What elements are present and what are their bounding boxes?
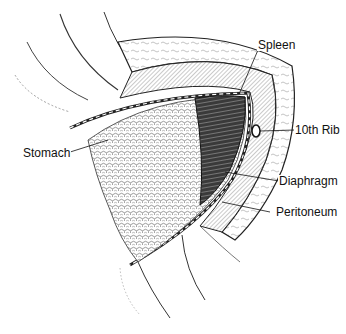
label-10th-rib: 10th Rib [294, 124, 341, 136]
label-spleen: Spleen [257, 39, 296, 51]
label-diaphragm: Diaphragm [278, 175, 339, 187]
label-peritoneum: Peritoneum [275, 206, 338, 218]
label-stomach: Stomach [22, 147, 71, 159]
